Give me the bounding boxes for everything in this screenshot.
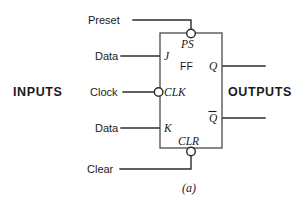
ps-pin-label: PS — [180, 38, 194, 50]
data-j-label: Data — [95, 50, 119, 62]
outputs-group-label: OUTPUTS — [228, 85, 292, 99]
device-label: FF — [180, 60, 193, 72]
clock-inversion-bubble — [154, 88, 163, 97]
clock-label: Clock — [90, 86, 118, 98]
clk-pin-label: CLK — [164, 86, 187, 98]
jk-flip-flop-figure: Preset Data Clock Data Clear J CLK K PS … — [0, 0, 298, 206]
clear-wire — [120, 156, 191, 169]
clear-label: Clear — [87, 163, 114, 175]
j-pin-label: J — [164, 50, 170, 62]
preset-wire — [133, 20, 191, 29]
clear-inversion-bubble — [187, 147, 196, 156]
figure-caption: (a) — [182, 181, 196, 195]
clr-pin-label: CLR — [178, 135, 199, 147]
inputs-group-label: INPUTS — [13, 85, 62, 99]
preset-inversion-bubble — [187, 29, 196, 38]
q-pin-label: Q — [209, 60, 218, 72]
data-k-label: Data — [95, 122, 119, 134]
k-pin-label: K — [163, 122, 173, 134]
preset-label: Preset — [88, 14, 120, 26]
qbar-pin-label: Q — [209, 112, 218, 124]
flip-flop-schematic: Preset Data Clock Data Clear J CLK K PS … — [0, 0, 298, 206]
